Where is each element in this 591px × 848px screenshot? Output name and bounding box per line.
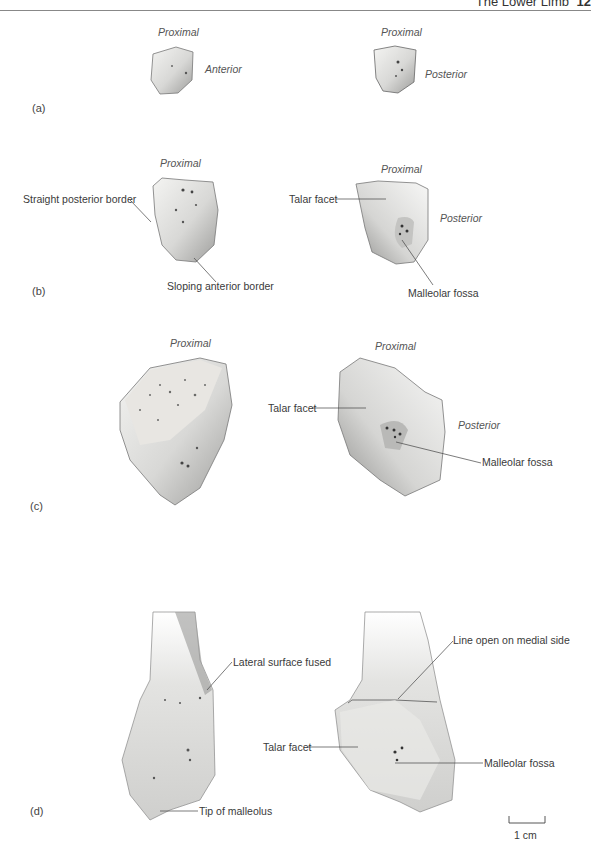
label-c-posterior: Posterior	[458, 419, 500, 431]
bone-a-posterior	[374, 46, 416, 93]
panel-letter-d: (d)	[30, 805, 43, 817]
label-b-right-proximal: Proximal	[381, 163, 422, 175]
bone-d-lateral	[122, 612, 232, 820]
label-a-anterior: Anterior	[205, 63, 242, 75]
callout-malleolar-fossa-d: Malleolar fossa	[484, 757, 555, 769]
bone-b-medial	[336, 181, 433, 285]
bone-b-lateral	[130, 178, 218, 282]
callout-line-open-medial-side: Line open on medial side	[453, 634, 570, 646]
label-a-posterior: Posterior	[425, 68, 467, 80]
bone-c-lateral	[120, 358, 232, 505]
label-a-right-proximal: Proximal	[381, 26, 422, 38]
callout-straight-posterior-border: Straight posterior border	[23, 193, 136, 205]
label-c-left-proximal: Proximal	[170, 337, 211, 349]
callout-talar-facet-b: Talar facet	[289, 193, 337, 205]
callout-malleolar-fossa-b: Malleolar fossa	[408, 287, 479, 299]
panel-letter-a: (a)	[32, 102, 45, 114]
label-b-posterior: Posterior	[440, 212, 482, 224]
callout-sloping-anterior-border: Sloping anterior border	[167, 280, 274, 292]
callout-talar-facet-c: Talar facet	[268, 402, 316, 414]
bone-a-anterior	[151, 47, 193, 94]
bone-illustrations	[0, 0, 591, 848]
callout-talar-facet-d: Talar facet	[263, 741, 311, 753]
callout-tip-of-malleolus: Tip of malleolus	[199, 805, 272, 817]
callout-malleolar-fossa-c: Malleolar fossa	[482, 456, 553, 468]
bone-c-medial	[312, 358, 481, 496]
label-c-right-proximal: Proximal	[375, 340, 416, 352]
scale-bar	[509, 816, 545, 823]
panel-letter-b: (b)	[32, 285, 45, 297]
callout-lateral-surface-fused: Lateral surface fused	[233, 656, 331, 668]
label-b-left-proximal: Proximal	[160, 157, 201, 169]
label-a-left-proximal: Proximal	[158, 26, 199, 38]
panel-letter-c: (c)	[30, 500, 43, 512]
scale-label: 1 cm	[514, 829, 537, 841]
